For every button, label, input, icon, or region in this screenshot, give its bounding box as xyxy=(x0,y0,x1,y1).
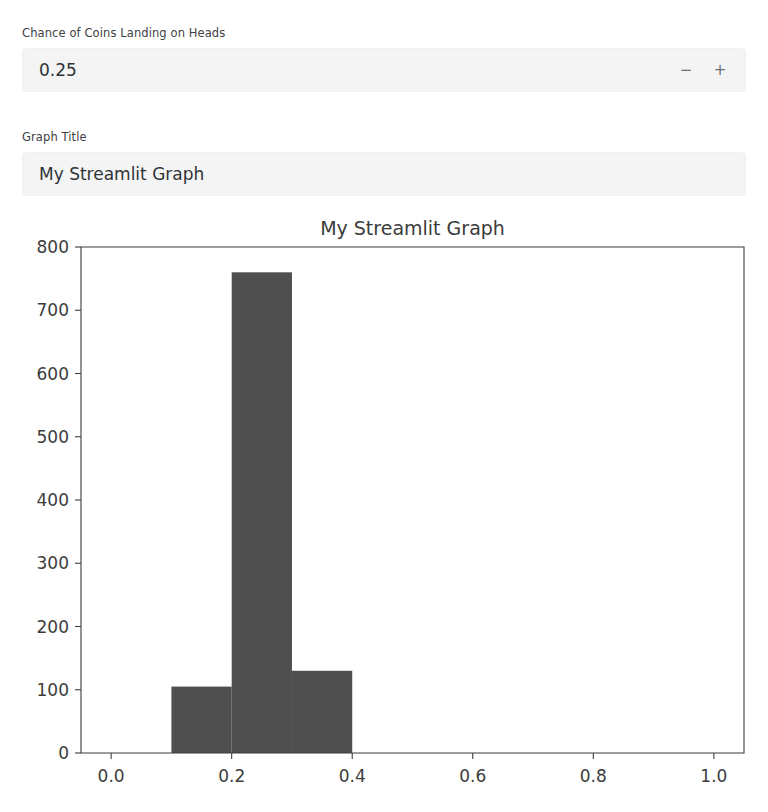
histogram-bar-1 xyxy=(232,272,292,753)
x-tick-label-0: 0.0 xyxy=(98,766,125,786)
chance-of-heads-input[interactable] xyxy=(23,49,669,91)
y-tick-label-4: 400 xyxy=(37,490,69,510)
histogram-bar-0 xyxy=(171,687,231,753)
streamlit-app-root: Chance of Coins Landing on Heads − + Gra… xyxy=(0,0,768,812)
histogram-svg: My Streamlit Graph0100200300400500600700… xyxy=(0,208,768,808)
y-tick-label-5: 500 xyxy=(37,427,69,447)
decrement-button[interactable]: − xyxy=(669,49,703,91)
x-tick-label-5: 1.0 xyxy=(700,766,727,786)
x-tick-label-4: 0.8 xyxy=(580,766,607,786)
histogram-bar-2 xyxy=(292,671,352,753)
x-tick-label-3: 0.6 xyxy=(459,766,486,786)
graph-title-label: Graph Title xyxy=(22,130,87,144)
x-tick-label-2: 0.4 xyxy=(339,766,366,786)
number-input-container[interactable]: − + xyxy=(22,48,746,92)
y-tick-label-0: 0 xyxy=(58,743,69,763)
plot-frame xyxy=(81,247,744,753)
histogram-figure: My Streamlit Graph0100200300400500600700… xyxy=(0,208,768,808)
y-tick-label-7: 700 xyxy=(37,300,69,320)
number-input-label: Chance of Coins Landing on Heads xyxy=(22,26,225,40)
text-input-container[interactable] xyxy=(22,152,746,196)
chart-title: My Streamlit Graph xyxy=(320,217,505,239)
x-tick-label-1: 0.2 xyxy=(218,766,245,786)
y-tick-label-3: 300 xyxy=(37,553,69,573)
y-tick-label-2: 200 xyxy=(37,617,69,637)
y-tick-label-6: 600 xyxy=(37,364,69,384)
graph-title-input[interactable] xyxy=(23,153,745,195)
y-tick-label-1: 100 xyxy=(37,680,69,700)
increment-button[interactable]: + xyxy=(703,49,737,91)
y-tick-label-8: 800 xyxy=(37,237,69,257)
